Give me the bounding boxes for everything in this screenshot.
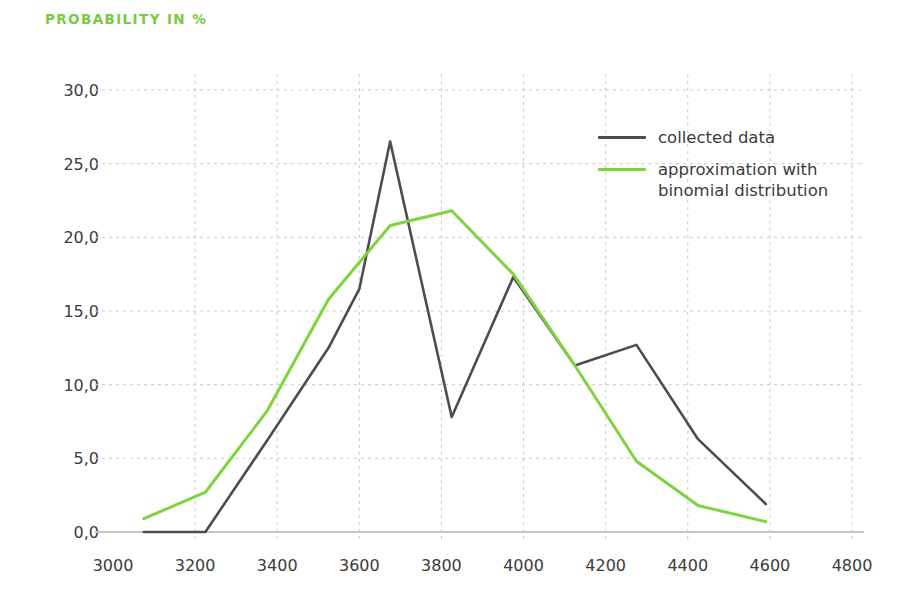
y-tick-label: 25,0 [63, 154, 99, 173]
x-tick-label: 4600 [750, 556, 791, 575]
y-tick-label: 20,0 [63, 228, 99, 247]
series-line-2 [144, 211, 766, 522]
chart-root: PROBABILITY IN % 0,05,010,015,020,025,03… [0, 0, 907, 613]
y-tick-label: 10,0 [63, 375, 99, 394]
x-tick-label: 3200 [175, 556, 216, 575]
legend-swatch-line-icon [598, 136, 646, 139]
y-tick-label: 30,0 [63, 81, 99, 100]
x-tick-label: 4000 [503, 556, 544, 575]
legend-entry: approximation with binomial distribution [598, 159, 878, 201]
x-tick-label: 3800 [421, 556, 462, 575]
legend-entry: collected data [598, 127, 878, 148]
legend-swatch-line-icon [598, 168, 646, 171]
x-tick-label: 3400 [257, 556, 298, 575]
x-tick-label: 3600 [339, 556, 380, 575]
legend-label: approximation with binomial distribution [658, 159, 828, 201]
x-tick-label: 3000 [93, 556, 134, 575]
x-tick-label: 4200 [585, 556, 626, 575]
y-axis-labels: 0,05,010,015,020,025,030,0 [0, 0, 99, 613]
y-tick-label: 15,0 [63, 302, 99, 321]
x-tick-label: 4800 [832, 556, 873, 575]
chart-legend: collected dataapproximation with binomia… [598, 127, 878, 212]
legend-label: collected data [658, 127, 775, 148]
x-tick-label: 4400 [667, 556, 708, 575]
